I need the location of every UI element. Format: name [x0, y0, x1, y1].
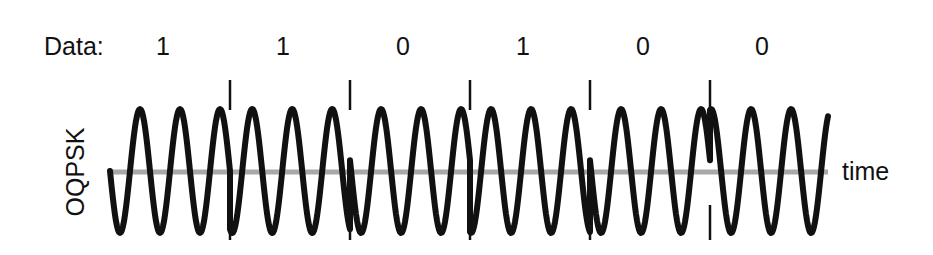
- oqpsk-waveform-plot: [0, 0, 933, 255]
- x-axis-label: time: [842, 157, 889, 186]
- y-axis-label: OQPSK: [61, 128, 90, 217]
